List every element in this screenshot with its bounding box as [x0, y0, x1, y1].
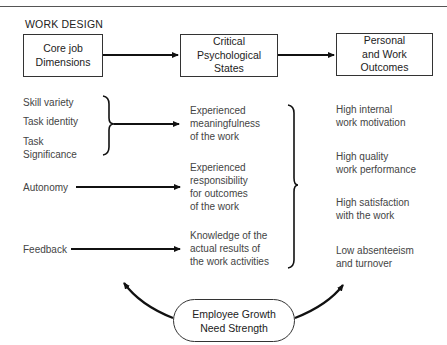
dimension-feedback: Feedback	[23, 243, 67, 256]
moderator-arrow-right	[295, 285, 343, 318]
dimension-autonomy: Autonomy	[23, 181, 68, 194]
growth-need-strength-node: Employee Growth Need Strength	[173, 299, 295, 342]
outcome-motivation: High internal work motivation	[336, 103, 405, 129]
dimension-task-significance: Task Significance	[23, 135, 77, 161]
state-knowledge-of-results: Knowledge of the actual results of the w…	[190, 229, 269, 268]
outcome-absenteeism: Low absenteeism and turnover	[336, 244, 414, 270]
small-brace	[103, 96, 114, 155]
outcome-performance: High quality work performance	[336, 150, 416, 176]
state-responsibility: Experienced responsibility for outcomes …	[190, 161, 248, 213]
moderator-arrow-left	[124, 283, 173, 318]
outcome-satisfaction: High satisfaction with the work	[336, 196, 409, 222]
large-brace	[288, 105, 298, 268]
dimension-task-identity: Task identity	[23, 115, 78, 128]
state-meaningfulness: Experienced meaningfulness of the work	[190, 104, 260, 143]
dimension-skill-variety: Skill variety	[23, 96, 74, 109]
